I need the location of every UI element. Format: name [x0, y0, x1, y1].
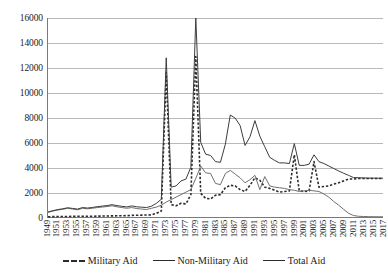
x-tick-label: 2011: [349, 220, 358, 237]
x-tick-label: 1971: [151, 220, 160, 237]
x-tick-label: 1969: [141, 220, 150, 237]
x-tick-label: 1961: [102, 220, 111, 237]
legend-swatch-icon: [153, 260, 175, 261]
y-tick-label: 4000: [0, 163, 43, 173]
y-tick-label: 0: [0, 213, 43, 223]
x-tick-label: 1987: [230, 220, 239, 237]
y-tick-label: 8000: [0, 113, 43, 123]
x-tick-label: 1989: [240, 220, 249, 237]
y-tick-label: 14000: [0, 38, 43, 48]
y-tick-label: 12000: [0, 63, 43, 73]
legend-item[interactable]: Total Aid: [263, 255, 325, 266]
series-line-military-aid: [48, 57, 383, 217]
plot-area: [47, 18, 383, 218]
x-tick-label: 1973: [161, 220, 170, 237]
x-tick-label: 1995: [270, 220, 279, 237]
x-tick-label: 1957: [82, 220, 91, 237]
y-tick-label: 10000: [0, 88, 43, 98]
legend-swatch-icon: [63, 260, 85, 262]
x-tick-label: 2009: [339, 220, 348, 237]
x-axis: 1949195119531955195719591961196319651967…: [47, 220, 383, 254]
x-tick-label: 2013: [359, 220, 368, 237]
y-tick-label: 6000: [0, 138, 43, 148]
series-line-non-military-aid: [48, 166, 383, 217]
legend-label: Non-Military Aid: [178, 255, 248, 266]
x-tick-label: 2015: [369, 220, 378, 237]
y-tick-label: 2000: [0, 188, 43, 198]
x-tick-label: 1963: [112, 220, 121, 237]
line-chart: 0200040006000800010000120001400016000 19…: [0, 0, 388, 276]
x-tick-label: 2017: [379, 220, 388, 237]
legend-item[interactable]: Non-Military Aid: [153, 255, 248, 266]
x-tick-label: 1977: [181, 220, 190, 237]
x-tick-label: 1975: [171, 220, 180, 237]
x-tick-label: 2007: [329, 220, 338, 237]
chart-legend: Military AidNon-Military AidTotal Aid: [0, 255, 388, 266]
x-tick-label: 1991: [250, 220, 259, 237]
x-tick-label: 1997: [280, 220, 289, 237]
x-tick-label: 1993: [260, 220, 269, 237]
legend-label: Military Aid: [88, 255, 138, 266]
y-axis: 0200040006000800010000120001400016000: [0, 18, 43, 218]
x-tick-label: 2005: [319, 220, 328, 237]
legend-swatch-icon: [263, 260, 285, 261]
y-tick-label: 16000: [0, 13, 43, 23]
legend-label: Total Aid: [288, 255, 325, 266]
x-tick-label: 1959: [92, 220, 101, 237]
series-container: [48, 18, 383, 217]
x-tick-label: 1953: [62, 220, 71, 237]
x-tick-label: 2003: [309, 220, 318, 237]
x-tick-label: 1955: [72, 220, 81, 237]
legend-item[interactable]: Military Aid: [63, 255, 138, 266]
x-tick-label: 1979: [191, 220, 200, 237]
x-tick-label: 1981: [201, 220, 210, 237]
